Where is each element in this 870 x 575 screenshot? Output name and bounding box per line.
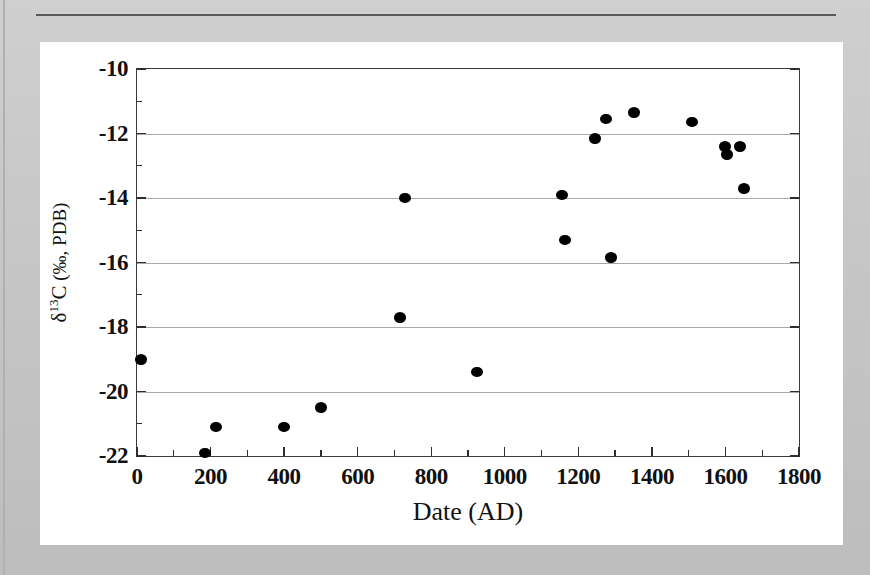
- y-tick-major-right: [790, 391, 799, 392]
- data-point: [738, 183, 750, 194]
- x-tick-major: [283, 447, 284, 456]
- y-tick-major: [137, 262, 146, 263]
- y-tick-label: -22: [99, 443, 128, 469]
- y-axis-delta: δ: [47, 313, 71, 323]
- data-point: [556, 190, 568, 201]
- y-tick-major: [137, 455, 146, 456]
- x-tick-major: [357, 447, 358, 456]
- data-point: [278, 422, 290, 433]
- y-axis-superscript: 13: [46, 300, 61, 313]
- x-tick-major: [504, 447, 505, 456]
- y-tick-major-right: [790, 133, 799, 134]
- x-tick-label: 800: [415, 464, 448, 490]
- y-tick-major-right: [790, 68, 799, 69]
- y-tick-label: -10: [99, 56, 128, 82]
- gridline-y: [137, 134, 799, 135]
- x-tick-minor: [173, 450, 174, 456]
- x-axis-title: Date (AD): [136, 497, 800, 527]
- x-tick-label: 600: [341, 464, 374, 490]
- data-point: [559, 235, 571, 246]
- y-tick-major: [137, 197, 146, 198]
- data-point: [734, 141, 746, 152]
- data-point: [210, 422, 222, 433]
- y-tick-minor: [137, 423, 142, 424]
- y-tick-label: -12: [99, 121, 128, 147]
- x-tick-minor: [614, 450, 615, 456]
- y-tick-major: [137, 133, 146, 134]
- y-tick-minor: [137, 101, 142, 102]
- data-point: [686, 117, 698, 128]
- y-tick-major: [137, 68, 146, 69]
- x-tick-label: 1400: [630, 464, 674, 490]
- y-axis-title: δ13C (‰, PDB): [46, 68, 80, 457]
- x-tick-major: [578, 447, 579, 456]
- x-tick-label: 0: [132, 464, 143, 490]
- data-point: [135, 354, 147, 365]
- gridline-y: [137, 198, 799, 199]
- data-point: [199, 448, 211, 459]
- x-tick-minor: [762, 450, 763, 456]
- y-tick-minor: [137, 165, 142, 166]
- y-axis-units-text: (‰, PDB): [49, 203, 70, 281]
- x-tick-label: 1800: [777, 464, 821, 490]
- x-tick-minor: [467, 450, 468, 456]
- data-point: [471, 367, 483, 378]
- figure-card: -10-12-14-16-18-20-220200400600800100012…: [40, 42, 843, 545]
- x-tick-minor: [688, 450, 689, 456]
- x-tick-label: 200: [194, 464, 227, 490]
- x-tick-minor: [394, 450, 395, 456]
- gridline-y: [137, 327, 799, 328]
- x-tick-major: [136, 447, 137, 456]
- x-tick-major: [651, 447, 652, 456]
- y-tick-label: -18: [99, 314, 128, 340]
- data-point: [399, 193, 411, 204]
- page-top-rule: [36, 14, 836, 16]
- plot-area: -10-12-14-16-18-20-220200400600800100012…: [136, 68, 800, 457]
- gridline-y: [137, 263, 799, 264]
- x-tick-label: 1000: [483, 464, 527, 490]
- y-tick-minor: [137, 230, 142, 231]
- data-point: [721, 149, 733, 160]
- x-tick-label: 1200: [556, 464, 600, 490]
- x-tick-label: 1600: [703, 464, 747, 490]
- y-tick-label: -14: [99, 185, 128, 211]
- data-point: [394, 312, 406, 323]
- y-axis-element: C: [47, 285, 71, 299]
- x-tick-label: 400: [268, 464, 301, 490]
- y-tick-label: -16: [99, 250, 128, 276]
- data-point: [315, 402, 327, 413]
- x-tick-major: [798, 447, 799, 456]
- y-axis-units: [49, 281, 70, 286]
- x-axis-title-text: Date (AD): [413, 497, 523, 526]
- y-tick-major: [137, 326, 146, 327]
- x-tick-major: [725, 447, 726, 456]
- x-tick-minor: [247, 450, 248, 456]
- x-tick-minor: [541, 450, 542, 456]
- data-point: [605, 252, 617, 263]
- y-tick-major-right: [790, 197, 799, 198]
- page-left-margin-rule: [3, 0, 5, 575]
- x-tick-minor: [320, 450, 321, 456]
- x-tick-major: [431, 447, 432, 456]
- data-point: [600, 114, 612, 125]
- y-tick-major: [137, 391, 146, 392]
- y-tick-major-right: [790, 326, 799, 327]
- data-point: [628, 107, 640, 118]
- y-tick-major-right: [790, 262, 799, 263]
- y-tick-minor: [137, 294, 142, 295]
- gridline-y: [137, 392, 799, 393]
- y-tick-label: -20: [99, 379, 128, 405]
- data-point: [589, 133, 601, 144]
